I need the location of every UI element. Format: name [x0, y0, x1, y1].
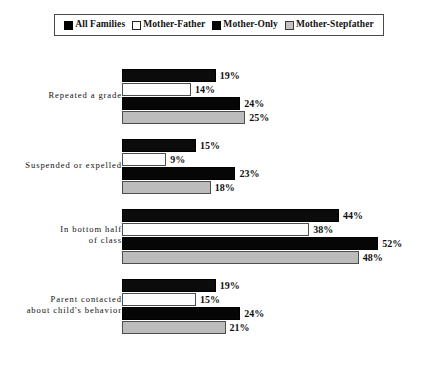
category-label-line: about child's behavior	[0, 305, 122, 316]
category-label: Repeated a grade	[0, 90, 122, 101]
bar-all-families	[122, 139, 196, 152]
bar-value-label: 24%	[244, 309, 264, 319]
bar-mother-father	[122, 83, 191, 96]
bar-value-label: 44%	[343, 211, 363, 221]
bar-row: 9%	[122, 153, 185, 166]
category-label-line: Parent contacted	[0, 294, 122, 305]
bar-mother-only	[122, 97, 240, 110]
bar-row: 18%	[122, 181, 235, 194]
chart-legend: All Families Mother-Father Mother-Only M…	[54, 14, 384, 36]
light-gray-swatch-icon	[285, 21, 294, 30]
bar-row: 25%	[122, 111, 269, 124]
bar-group-repeated-a-grade: Repeated a grade 19% 14% 24% 25%	[0, 66, 436, 126]
bar-value-label: 52%	[382, 239, 402, 249]
legend-label: All Families	[75, 20, 125, 30]
bar-row: 52%	[122, 237, 402, 250]
bar-row: 21%	[122, 321, 250, 334]
bar-value-label: 19%	[220, 281, 240, 291]
black-swatch-icon	[64, 21, 73, 30]
bar-value-label: 19%	[220, 71, 240, 81]
bar-value-label: 38%	[313, 225, 333, 235]
white-swatch-icon	[132, 21, 141, 30]
legend-item-mother-only: Mother-Only	[212, 20, 278, 30]
legend-item-mother-father: Mother-Father	[132, 20, 205, 30]
bar-mother-stepfather	[122, 111, 245, 124]
plot-area: Repeated a grade 19% 14% 24% 25% Suspe	[0, 66, 436, 346]
bar-row: 44%	[122, 209, 363, 222]
bar-row: 48%	[122, 251, 383, 264]
legend-label: Mother-Stepfather	[296, 20, 374, 30]
bar-value-label: 18%	[215, 183, 235, 193]
legend-item-all-families: All Families	[64, 20, 125, 30]
legend-item-mother-stepfather: Mother-Stepfather	[285, 20, 374, 30]
bar-mother-only	[122, 307, 240, 320]
bar-value-label: 48%	[363, 253, 383, 263]
bar-row: 19%	[122, 69, 240, 82]
bar-mother-father	[122, 153, 166, 166]
bar-row: 24%	[122, 307, 264, 320]
category-label: In bottom half of class	[0, 224, 122, 246]
bar-value-label: 9%	[170, 155, 185, 165]
category-label-line: Repeated a grade	[0, 90, 122, 101]
bar-group-suspended-or-expelled: Suspended or expelled 15% 9% 23% 18%	[0, 136, 436, 196]
bar-value-label: 23%	[239, 169, 259, 179]
bar-row: 15%	[122, 293, 220, 306]
bar-mother-only	[122, 237, 378, 250]
bar-value-label: 25%	[249, 113, 269, 123]
legend-label: Mother-Only	[223, 20, 278, 30]
bar-value-label: 15%	[200, 295, 220, 305]
bar-value-label: 14%	[195, 85, 215, 95]
category-label-line: Suspended or expelled	[0, 160, 122, 171]
category-label: Parent contacted about child's behavior	[0, 294, 122, 316]
bar-group-in-bottom-half-of-class: In bottom half of class 44% 38% 52% 48%	[0, 206, 436, 266]
black-swatch-icon	[212, 21, 221, 30]
bar-value-label: 24%	[244, 99, 264, 109]
grouped-bar-chart: All Families Mother-Father Mother-Only M…	[0, 0, 436, 369]
bar-all-families	[122, 279, 216, 292]
category-label-line: of class	[0, 235, 122, 246]
bar-all-families	[122, 209, 339, 222]
category-label-line: In bottom half	[0, 224, 122, 235]
bar-mother-father	[122, 223, 309, 236]
bar-mother-stepfather	[122, 251, 359, 264]
category-label: Suspended or expelled	[0, 160, 122, 171]
bar-row: 24%	[122, 97, 264, 110]
bar-row: 23%	[122, 167, 259, 180]
bar-mother-stepfather	[122, 181, 211, 194]
bar-row: 15%	[122, 139, 220, 152]
bar-group-parent-contacted: Parent contacted about child's behavior …	[0, 276, 436, 336]
bar-row: 19%	[122, 279, 240, 292]
bar-mother-father	[122, 293, 196, 306]
legend-label: Mother-Father	[143, 20, 205, 30]
bar-value-label: 21%	[230, 323, 250, 333]
bar-row: 14%	[122, 83, 215, 96]
bar-row: 38%	[122, 223, 333, 236]
bar-mother-stepfather	[122, 321, 226, 334]
bar-value-label: 15%	[200, 141, 220, 151]
bar-all-families	[122, 69, 216, 82]
bar-mother-only	[122, 167, 235, 180]
